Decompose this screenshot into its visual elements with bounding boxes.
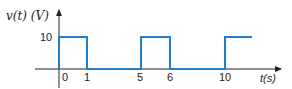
square-wave-chart: v(t) (V) 10 0 1 5 6 10 t(s) — [0, 0, 292, 89]
x-tick-6: 6 — [167, 71, 173, 83]
x-axis-label: t(s) — [260, 72, 276, 84]
y-tick-10: 10 — [40, 31, 52, 43]
waveform-line — [59, 37, 252, 69]
x-tick-5: 5 — [137, 71, 143, 83]
y-axis-label: v(t) (V) — [6, 9, 49, 23]
x-tick-10: 10 — [219, 71, 231, 83]
x-tick-1: 1 — [84, 71, 90, 83]
x-tick-0: 0 — [62, 71, 68, 83]
